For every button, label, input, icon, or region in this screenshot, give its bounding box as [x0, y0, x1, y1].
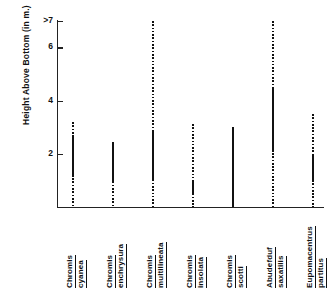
species-label: Chromiscyanea	[65, 255, 87, 288]
species-label-line: scotti	[236, 266, 247, 288]
range-bar-solid-segment	[72, 135, 74, 178]
range-bar-solid-segment	[192, 180, 194, 195]
range-bar-solid-segment	[112, 142, 114, 183]
y-tick-label-7: >7	[31, 16, 53, 25]
y-tick-label-6: 6	[31, 42, 53, 51]
range-bar	[308, 0, 318, 212]
y-axis-label: Height Above Bottom (in m.)	[21, 0, 31, 135]
species-label-line: Chromis	[105, 255, 116, 288]
range-bar	[188, 0, 198, 212]
species-label-line: Abudefduf	[265, 247, 276, 288]
species-label-line: Chromis	[225, 255, 236, 288]
species-label: Chromisscotti	[225, 255, 247, 288]
range-bar	[68, 0, 78, 212]
height-above-bottom-chart: Height Above Bottom (in m.) >7 6 4 2 Chr…	[0, 0, 335, 291]
species-label: Chromisinsolata	[185, 255, 207, 288]
species-label-line: cyanea	[76, 260, 87, 288]
range-bar	[268, 0, 278, 212]
species-label-line: Chromis	[185, 255, 196, 288]
species-label: Chromisenchrysura	[105, 244, 127, 288]
species-label: Abudefdufsaxatilis	[265, 247, 287, 288]
y-tick-mark-7	[58, 21, 63, 22]
range-bar	[148, 0, 158, 212]
species-label-line: Eupomacentrus	[305, 226, 316, 288]
range-bar-solid-segment	[152, 132, 154, 181]
range-bar	[108, 0, 118, 212]
species-label-line: partitus	[316, 258, 327, 288]
range-bar-solid-segment	[272, 88, 274, 152]
species-label-line: saxatilis	[276, 256, 287, 288]
y-tick-mark-4	[58, 101, 63, 102]
species-label-line: Chromis	[65, 255, 76, 288]
y-tick-mark-2	[58, 154, 63, 155]
y-tick-mark-6	[58, 47, 63, 48]
y-tick-label-4: 4	[31, 96, 53, 105]
range-bar-solid-segment	[232, 127, 234, 207]
species-label: Chromismultilineata	[145, 242, 167, 288]
species-label-line: insolata	[196, 257, 207, 288]
species-label-line: enchrysura	[116, 244, 127, 288]
species-label-line: multilineata	[156, 242, 167, 288]
species-label: Eupomacentruspartitus	[305, 226, 327, 288]
range-bar-solid-segment	[312, 155, 314, 180]
y-tick-label-2: 2	[31, 149, 53, 158]
range-bar	[228, 0, 238, 212]
species-label-line: Chromis	[145, 255, 156, 288]
